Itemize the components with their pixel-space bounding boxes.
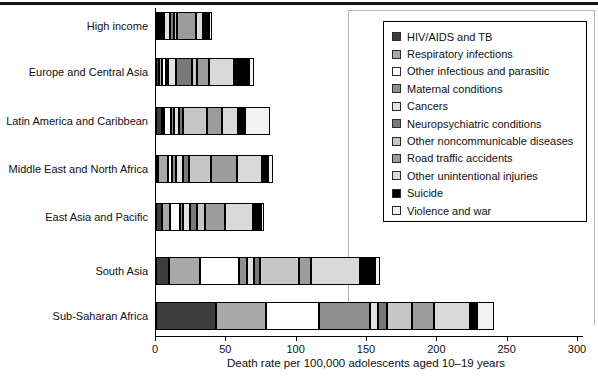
bar-segment [177,12,197,40]
legend-item: Maternal conditions [392,80,586,97]
category-label: Sub-Saharan Africa [0,302,148,330]
bar-segment [156,257,169,285]
bar-segment [222,107,237,135]
x-tick [436,336,437,341]
legend: HIV/AIDS and TBRespiratory infectionsOth… [383,21,587,222]
x-tick-label: 300 [557,343,597,355]
bar-segment [200,257,239,285]
bar-segment [183,203,190,231]
bar-segment [209,12,212,40]
bar-segment [299,257,310,285]
bar-segment [158,155,168,183]
bar-segment [176,155,183,183]
bar-segment [216,302,265,330]
legend-item: Other infectious and parasitic [392,63,586,80]
top-rule [0,2,598,5]
legend-item: Other noncommunicable diseases [392,132,586,149]
category-label: High income [0,12,148,40]
legend-item: Respiratory infections [392,45,586,62]
bar-segment [209,58,234,86]
legend-label: Respiratory infections [407,48,513,60]
legend-item: HIV/AIDS and TB [392,28,586,45]
bar-segment [247,257,254,285]
stacked-bar [156,107,270,135]
legend-swatch-icon [392,32,401,41]
stacked-bar [156,302,494,330]
legend-swatch-icon [392,206,401,215]
category-label: Europe and Central Asia [0,58,148,86]
bar-segment [169,257,200,285]
bar-segment [249,58,254,86]
x-tick [225,336,226,341]
bar-segment [268,155,274,183]
legend-swatch-icon [392,119,401,128]
bar-segment [162,203,170,231]
legend-label: Other noncommunicable diseases [407,135,573,147]
bar-segment [360,257,375,285]
bar-segment [197,58,208,86]
bar-segment [387,302,412,330]
legend-label: Violence and war [407,205,491,217]
x-tick-label: 100 [276,343,316,355]
bar-segment [205,203,225,231]
bar-segment [378,302,386,330]
legend-swatch-icon [392,84,401,93]
bar-segment [168,58,176,86]
bar-segment [156,302,216,330]
bar-segment [245,107,270,135]
stacked-bar [156,203,264,231]
legend-item: Neuropsychiatric conditions [392,115,586,132]
x-tick-label: 50 [205,343,245,355]
legend-label: Maternal conditions [407,83,502,95]
x-tick-label: 150 [346,343,386,355]
stacked-bar [156,257,380,285]
stacked-bar [156,58,254,86]
bar-segment [176,58,191,86]
bar-segment [253,203,261,231]
legend-label: Suicide [407,187,443,199]
x-tick [155,336,156,341]
bar-segment [319,302,370,330]
legend-swatch-icon [392,171,401,180]
x-tick [507,336,508,341]
bar-segment [207,107,222,135]
bar-segment [470,302,477,330]
legend-swatch-icon [392,67,401,76]
bar-segment [238,107,245,135]
legend-label: Other unintentional injuries [407,170,538,182]
legend-label: Other infectious and parasitic [407,65,549,77]
bar-segment [261,203,264,231]
x-tick [366,336,367,341]
bar-segment [211,155,236,183]
legend-label: Neuropsychiatric conditions [407,118,542,130]
x-axis-line [155,336,583,337]
category-label: South Asia [0,257,148,285]
bar-segment [239,257,247,285]
legend-swatch-icon [392,189,401,198]
bar-segment [225,203,253,231]
legend-item: Violence and war [392,202,586,219]
x-axis-title: Death rate per 100,000 adolescents aged … [155,357,577,369]
bar-segment [412,302,435,330]
bar-segment [434,302,469,330]
bar-segment [370,302,378,330]
bar-segment [477,302,494,330]
legend-swatch-icon [392,154,401,163]
bar-segment [170,203,180,231]
bar-segment [375,257,379,285]
legend-item: Suicide [392,185,586,202]
x-tick-label: 250 [487,343,527,355]
x-tick [577,336,578,341]
bar-segment [197,203,205,231]
x-tick-label: 200 [416,343,456,355]
bar-segment [234,58,249,86]
stacked-bar [156,12,212,40]
category-label: Latin America and Caribbean [0,107,148,135]
x-tick-label: 0 [135,343,175,355]
bar-segment [266,302,319,330]
bar-segment [196,12,203,40]
legend-label: Cancers [407,100,448,112]
x-tick [296,336,297,341]
bar-segment [164,107,171,135]
category-label: Middle East and North Africa [0,155,148,183]
